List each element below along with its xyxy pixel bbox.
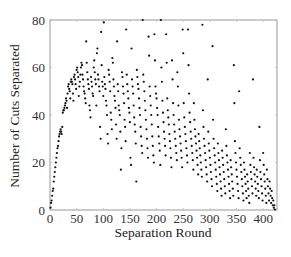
data-point	[79, 74, 81, 76]
data-point	[122, 85, 124, 87]
data-point	[148, 55, 150, 57]
data-point	[73, 74, 75, 76]
data-point	[64, 104, 66, 106]
data-point	[249, 152, 251, 154]
data-point	[126, 74, 128, 76]
data-point	[223, 178, 225, 180]
data-point	[89, 109, 91, 111]
data-point	[124, 119, 126, 121]
data-point	[239, 147, 241, 149]
data-point	[136, 76, 138, 78]
data-point	[72, 93, 74, 95]
data-point	[151, 135, 153, 137]
data-point	[68, 83, 70, 85]
data-point	[165, 33, 167, 35]
data-point	[90, 81, 92, 83]
data-point	[136, 69, 138, 71]
data-point	[183, 116, 185, 118]
data-point	[132, 93, 134, 95]
data-point	[171, 59, 173, 61]
data-point	[133, 116, 135, 118]
data-point	[206, 180, 208, 182]
data-point	[112, 62, 114, 64]
data-point	[129, 157, 131, 159]
data-point	[248, 195, 250, 197]
data-point	[248, 202, 250, 204]
data-point	[149, 85, 151, 87]
data-point	[130, 164, 132, 166]
data-point	[90, 76, 92, 78]
data-point	[251, 185, 253, 187]
x-axis-label: Separation Round	[114, 225, 211, 240]
data-point	[71, 81, 73, 83]
data-point	[220, 195, 222, 197]
data-point	[68, 88, 70, 90]
data-point	[86, 62, 88, 64]
data-point	[273, 204, 275, 206]
data-point	[159, 150, 161, 152]
data-point	[214, 154, 216, 156]
data-point	[234, 152, 236, 154]
data-point	[191, 145, 193, 147]
data-point	[138, 97, 140, 99]
data-point	[63, 107, 65, 109]
data-point	[152, 145, 154, 147]
data-point	[255, 195, 257, 197]
data-point	[104, 83, 106, 85]
data-point	[173, 114, 175, 116]
data-point	[137, 88, 139, 90]
data-point	[228, 183, 230, 185]
data-point	[256, 176, 258, 178]
data-point	[87, 78, 89, 80]
data-point	[184, 133, 186, 135]
data-point	[74, 83, 76, 85]
data-point	[270, 195, 272, 197]
data-point	[163, 131, 165, 133]
data-point	[210, 171, 212, 173]
data-point	[139, 126, 141, 128]
data-point	[212, 119, 214, 121]
data-point	[78, 85, 80, 87]
data-point	[108, 69, 110, 71]
data-point	[113, 95, 115, 97]
data-point	[205, 159, 207, 161]
data-point	[218, 166, 220, 168]
data-point	[167, 109, 169, 111]
data-point	[203, 138, 205, 140]
data-point	[51, 199, 53, 201]
data-point	[258, 126, 260, 128]
data-point	[271, 197, 273, 199]
data-point	[191, 152, 193, 154]
data-point	[141, 152, 143, 154]
data-point	[198, 133, 200, 135]
data-point	[152, 154, 154, 156]
data-point	[215, 176, 217, 178]
data-point	[193, 119, 195, 121]
data-point	[126, 83, 128, 85]
data-point	[138, 107, 140, 109]
data-point	[258, 197, 260, 199]
data-point	[206, 173, 208, 175]
data-point	[87, 83, 89, 85]
data-point	[173, 123, 175, 125]
data-point	[128, 107, 130, 109]
data-point	[242, 192, 244, 194]
data-point	[238, 90, 240, 92]
data-point	[63, 109, 65, 111]
data-point	[149, 95, 151, 97]
data-point	[57, 140, 59, 142]
x-tick-label: 250	[173, 211, 193, 226]
data-point	[211, 185, 213, 187]
data-point	[57, 145, 59, 147]
x-tick-label: 350	[227, 211, 247, 226]
data-point	[164, 145, 166, 147]
data-point	[211, 45, 213, 47]
data-point	[272, 199, 274, 201]
data-point	[187, 28, 189, 30]
data-point	[106, 114, 108, 116]
y-axis-label: Number of Cuts Separated	[7, 44, 22, 188]
data-point	[175, 145, 177, 147]
data-point	[137, 83, 139, 85]
data-point	[166, 62, 168, 64]
data-point	[246, 197, 248, 199]
